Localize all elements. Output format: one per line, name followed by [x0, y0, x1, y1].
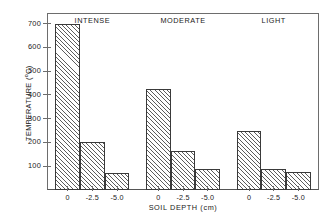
y-tick-label: 300 [1, 114, 41, 123]
x-tick-mark [183, 186, 184, 191]
bar-chart-figure: TEMPERATURE (oC) 100200300400500600700 I… [0, 0, 332, 220]
y-tick-label: 200 [1, 137, 41, 146]
x-axis-ticks: 0-2.5-5.00-2.5-5.00-2.5-5.0 [47, 190, 319, 204]
bar-group-moderate: MODERATE [146, 13, 220, 190]
x-tick-label: -5.0 [278, 193, 318, 202]
x-tick-label: -5.0 [97, 193, 137, 202]
x-tick-mark [117, 186, 118, 191]
x-tick-mark [67, 186, 68, 191]
bar-group-bars [55, 13, 129, 190]
bar[interactable] [146, 89, 171, 190]
bar-group-bars [146, 13, 220, 190]
x-tick-mark [207, 186, 208, 191]
x-tick-mark [249, 186, 250, 191]
y-tick-label: 700 [1, 19, 41, 28]
x-axis-label: SOIL DEPTH (cm) [47, 203, 319, 212]
x-tick-label: -5.0 [188, 193, 228, 202]
x-tick-mark [273, 186, 274, 191]
bar-groups: INTENSEMODERATELIGHT [47, 13, 319, 190]
bar-group-bars [237, 13, 311, 190]
x-tick-mark [158, 186, 159, 191]
x-tick-mark [298, 186, 299, 191]
y-tick-label: 600 [1, 42, 41, 51]
y-tick-label: 500 [1, 66, 41, 75]
y-tick-label: 400 [1, 90, 41, 99]
bar-group-light: LIGHT [237, 13, 311, 190]
bar[interactable] [55, 24, 80, 190]
bar-group-intense: INTENSE [55, 13, 129, 190]
bar[interactable] [171, 151, 196, 190]
y-axis-label-text: TEMPERATURE ( [24, 77, 33, 141]
bar[interactable] [237, 131, 262, 190]
bar[interactable] [80, 142, 105, 190]
x-tick-mark [92, 186, 93, 191]
y-tick-label: 100 [1, 161, 41, 170]
